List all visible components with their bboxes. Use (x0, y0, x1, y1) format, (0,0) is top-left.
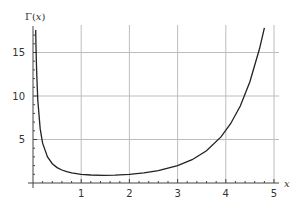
gridlines (33, 25, 279, 183)
y-tick-label-15: 15 (12, 47, 25, 58)
gamma-function-chart: 1 2 3 4 5 5 10 15 x Γ(x) (0, 0, 302, 207)
y-tick-label-10: 10 (12, 91, 25, 102)
x-axis-label: x (284, 178, 290, 189)
x-tick-label-1: 1 (78, 188, 84, 199)
gamma-curve (36, 28, 265, 176)
x-tick-label-4: 4 (223, 188, 229, 199)
x-tick-label-2: 2 (126, 188, 132, 199)
x-tick-label-5: 5 (271, 188, 277, 199)
y-tick-label-5: 5 (19, 134, 25, 145)
x-tick-label-3: 3 (174, 188, 180, 199)
y-axis-label: Γ(x) (25, 11, 45, 22)
x-axis-ticks (43, 179, 274, 183)
axes (28, 26, 279, 188)
